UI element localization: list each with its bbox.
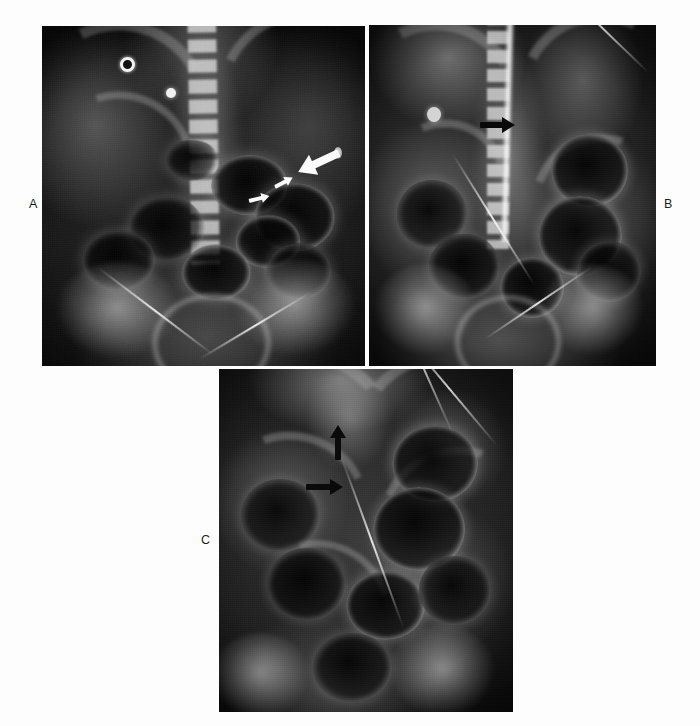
bowel-gas-loop: [313, 633, 392, 702]
xray-image-a: [42, 26, 365, 366]
ring-marker-icon: [120, 57, 135, 72]
xray-image-c: [219, 369, 513, 712]
bowel-gas-loop: [164, 139, 218, 180]
radiograph-panel-b[interactable]: [369, 25, 656, 366]
dot-marker-icon: [166, 88, 176, 98]
radiograph-panel-c[interactable]: [219, 369, 513, 712]
panel-label-c: C: [201, 533, 210, 547]
pelvis-iliac-wing: [386, 625, 498, 712]
dot-marker-icon: [427, 107, 441, 122]
xray-image-b: [369, 25, 656, 366]
bowel-gas-loop: [419, 556, 491, 625]
panel-label-b: B: [664, 197, 673, 211]
radiograph-panel-a[interactable]: [42, 26, 365, 366]
bowel-gas-loop: [267, 548, 346, 621]
figure-page: A: [0, 0, 700, 726]
panel-label-a: A: [29, 197, 38, 211]
